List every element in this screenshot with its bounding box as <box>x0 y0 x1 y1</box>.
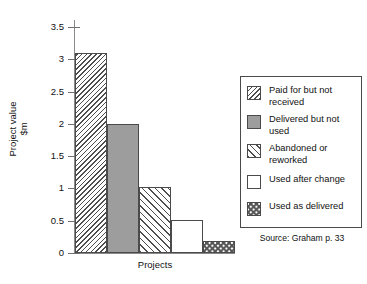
y-axis-tick-label-text: 2 <box>34 119 64 129</box>
legend-item-label: Used as delivered <box>269 201 343 213</box>
legend-item-label: Used after change <box>269 174 345 186</box>
y-axis-tick-label: 1 <box>32 183 64 193</box>
bar <box>107 124 139 253</box>
source-note: Source: Graham p. 33 <box>240 233 364 243</box>
y-axis-tick-label: 2.5 <box>32 87 64 97</box>
y-axis-tick-label: 3 <box>32 54 64 64</box>
y-axis-tick-label-text: 3 <box>34 54 64 64</box>
y-axis-title: Project value $m <box>7 93 29 165</box>
legend-item: Paid for but not received <box>247 85 359 108</box>
y-axis-tick-label: 0 <box>32 248 64 258</box>
y-axis-tick <box>68 253 80 254</box>
y-axis-tick-label: 0.5 <box>32 216 64 226</box>
y-axis-title-line2: $m <box>18 93 29 165</box>
y-axis-tick-label-text: 1 <box>34 183 64 193</box>
legend-swatch-icon <box>247 86 261 100</box>
bar <box>75 53 107 253</box>
x-axis-line <box>74 253 235 254</box>
y-axis-tick-label-text: 2.5 <box>34 87 64 97</box>
x-axis-title: Projects <box>75 259 235 270</box>
bar <box>171 220 203 253</box>
y-axis-tick-label: 2 <box>32 119 64 129</box>
bar-chart-figure: 00.511.522.533.5 Project value $m Projec… <box>0 0 367 284</box>
y-axis-title-line1: Project value <box>7 93 18 165</box>
y-axis-tick-label-text: 0.5 <box>34 216 64 226</box>
legend: Paid for but not receivedDelivered but n… <box>240 76 362 228</box>
y-axis-tick-label-text: 0 <box>34 248 64 258</box>
legend-swatch-icon <box>247 202 261 216</box>
y-axis-tick-label: 3.5 <box>32 22 64 32</box>
bar <box>139 187 171 253</box>
legend-item: Delivered but not used <box>247 114 359 137</box>
y-axis-tick-label: 1.5 <box>32 151 64 161</box>
legend-item: Used as delivered <box>247 201 359 216</box>
legend-swatch-icon <box>247 144 261 158</box>
legend-item-label: Abandoned or reworked <box>269 143 359 166</box>
legend-item: Used after change <box>247 174 359 189</box>
legend-item: Abandoned or reworked <box>247 143 359 166</box>
legend-item-label: Paid for but not received <box>269 85 359 108</box>
legend-swatch-icon <box>247 115 261 129</box>
plot-area <box>75 20 235 253</box>
bar <box>203 241 235 253</box>
y-axis-tick-label-text: 3.5 <box>34 22 64 32</box>
legend-swatch-icon <box>247 175 261 189</box>
y-axis-tick-label-text: 1.5 <box>34 151 64 161</box>
legend-item-label: Delivered but not used <box>269 114 359 137</box>
